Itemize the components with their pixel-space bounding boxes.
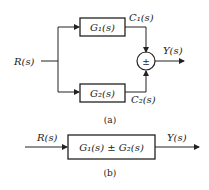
caption-a: (a) (104, 115, 116, 125)
label-r-b: R(s) (36, 132, 58, 143)
label-g2: G₂(s) (90, 88, 115, 99)
label-y-a: Y(s) (163, 45, 183, 56)
label-r-a: R(s) (13, 56, 35, 67)
label-c1: C₁(s) (129, 12, 154, 23)
label-combined: G₁(s) ± G₂(s) (79, 142, 144, 153)
label-g1: G₁(s) (90, 22, 115, 33)
sum-sign: ± (142, 57, 150, 67)
arrow-c1 (125, 27, 146, 52)
label-c2: C₂(s) (131, 94, 156, 105)
arrow-c2 (125, 71, 146, 92)
label-y-b: Y(s) (167, 132, 187, 143)
caption-b: (b) (104, 168, 117, 178)
block-diagram: R(s) G₁(s) G₂(s) C₁(s) C₂(s) ± Y(s) (a) … (0, 0, 209, 190)
